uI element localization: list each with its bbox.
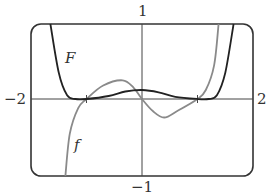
curve-label-F: F [65, 51, 75, 66]
function-graph [0, 0, 266, 196]
y-min-label: −1 [131, 180, 153, 195]
y-max-label: 1 [138, 4, 148, 19]
curve-label-f: f [74, 138, 80, 153]
x-min-label: −2 [4, 92, 26, 107]
x-max-label: 2 [257, 92, 266, 107]
